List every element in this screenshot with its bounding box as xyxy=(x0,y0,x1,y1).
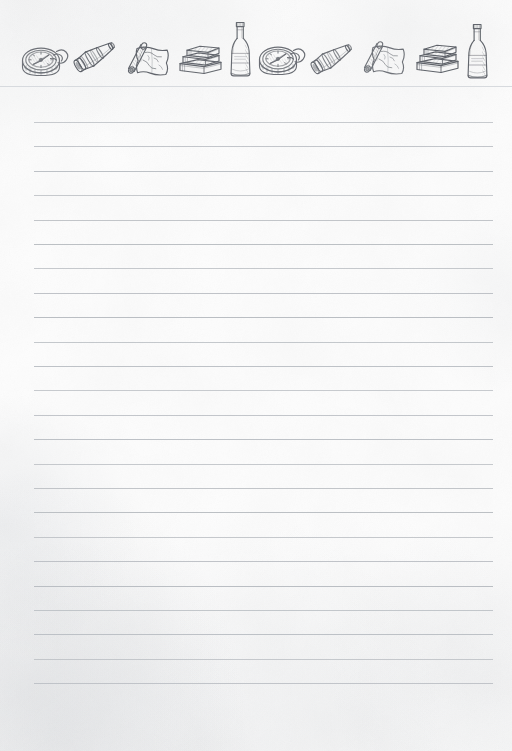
writing-line[interactable] xyxy=(34,415,493,416)
writing-line[interactable] xyxy=(34,683,493,684)
writing-line[interactable] xyxy=(34,586,493,587)
map-scroll-icon xyxy=(121,34,173,80)
writing-line[interactable] xyxy=(34,146,493,147)
book-stack-icon xyxy=(174,37,226,81)
writing-line[interactable] xyxy=(34,122,493,123)
book-stack-icon xyxy=(411,36,463,80)
decorative-header-band xyxy=(0,0,512,87)
writing-line[interactable] xyxy=(34,268,493,269)
writing-line[interactable] xyxy=(34,439,493,440)
writing-line[interactable] xyxy=(34,659,493,660)
compass-icon xyxy=(20,39,69,81)
writing-line[interactable] xyxy=(34,537,493,538)
writing-line[interactable] xyxy=(34,634,493,635)
header-separator-line xyxy=(0,86,512,87)
compass-icon xyxy=(257,38,306,80)
writing-line[interactable] xyxy=(34,317,493,318)
writing-line[interactable] xyxy=(34,464,493,465)
writing-line[interactable] xyxy=(34,195,493,196)
writing-line[interactable] xyxy=(34,244,493,245)
notebook-page xyxy=(0,0,512,751)
icon-strip xyxy=(0,0,512,87)
bottle-icon xyxy=(464,19,492,81)
writing-line[interactable] xyxy=(34,342,493,343)
writing-lines xyxy=(0,0,512,751)
writing-line[interactable] xyxy=(34,512,493,513)
writing-line[interactable] xyxy=(34,390,493,391)
map-scroll-icon xyxy=(357,33,409,79)
writing-line[interactable] xyxy=(34,610,493,611)
spyglass-icon xyxy=(307,37,356,81)
writing-line[interactable] xyxy=(34,293,493,294)
writing-line[interactable] xyxy=(34,171,493,172)
writing-line[interactable] xyxy=(34,561,493,562)
writing-line[interactable] xyxy=(34,220,493,221)
writing-line[interactable] xyxy=(34,366,493,367)
spyglass-icon xyxy=(70,35,119,79)
writing-line[interactable] xyxy=(34,488,493,489)
bottle-icon xyxy=(227,17,255,79)
